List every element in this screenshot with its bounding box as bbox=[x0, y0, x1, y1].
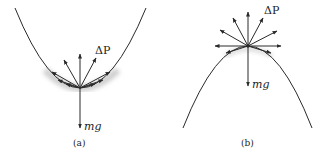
caption-a: (a) bbox=[73, 138, 85, 148]
weight-label-b: mg bbox=[252, 78, 269, 91]
weight-label-a: mg bbox=[84, 120, 101, 133]
caption-b: (b) bbox=[241, 138, 254, 148]
force-diagram: ΔP mg (a) ΔP mg (b) bbox=[0, 0, 328, 158]
panel-b: ΔP mg (b) bbox=[183, 4, 312, 148]
impulse-label-a: ΔP bbox=[95, 44, 111, 57]
impulse-label-b: ΔP bbox=[264, 4, 280, 17]
panel-a: ΔP mg (a) bbox=[15, 8, 146, 148]
